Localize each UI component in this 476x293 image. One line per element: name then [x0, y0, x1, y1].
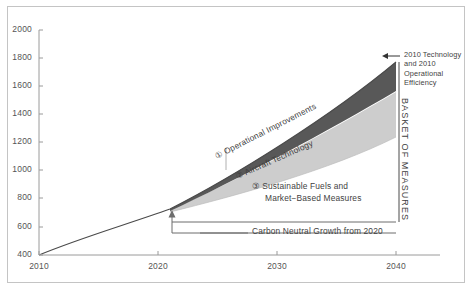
- tech-2010-arrow: [382, 53, 400, 59]
- x-tick-2020: 2020: [133, 261, 183, 271]
- x-axis-ticks: [39, 251, 396, 255]
- y-tick-2000: 2000: [0, 25, 32, 34]
- marker-3-icon: ③: [252, 181, 260, 191]
- x-tick-2030: 2030: [252, 261, 302, 271]
- label-sustainable-line2: Market−Based Measures: [252, 193, 361, 205]
- y-tick-1400: 1400: [0, 109, 32, 118]
- label-carbon-neutral-growth: Carbon Neutral Growth from 2020: [252, 226, 383, 236]
- label-2010-technology: 2010 Technology and 2010 Operational Eff…: [404, 50, 466, 88]
- x-tick-2010: 2010: [14, 261, 64, 271]
- y-axis-ticks: [39, 30, 43, 255]
- y-tick-1200: 1200: [0, 137, 32, 146]
- label-sustainable-fuels: ③ Sustainable Fuels and Market−Based Mea…: [252, 181, 361, 204]
- label-sustainable-line1: Sustainable Fuels and: [262, 181, 348, 191]
- y-tick-1600: 1600: [0, 81, 32, 90]
- chart-figure: 2000 1800 1600 1400 1200 1000 800 600 40…: [0, 0, 476, 293]
- x-tick-2040: 2040: [371, 261, 421, 271]
- y-tick-1000: 1000: [0, 165, 32, 174]
- y-tick-1800: 1800: [0, 53, 32, 62]
- y-tick-600: 600: [0, 222, 32, 231]
- y-tick-400: 400: [0, 250, 32, 259]
- label-basket-of-measures: BASKET OF MEASURES: [400, 98, 410, 221]
- y-tick-800: 800: [0, 193, 32, 202]
